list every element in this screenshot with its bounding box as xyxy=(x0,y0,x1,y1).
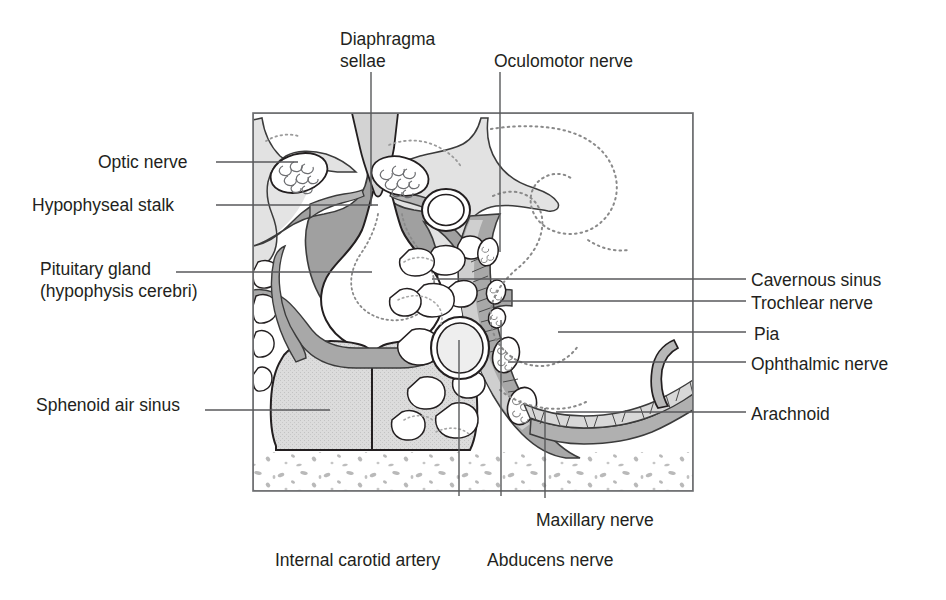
label-pituitary-gland-line1: Pituitary gland xyxy=(40,258,198,280)
label-abducens-nerve: Abducens nerve xyxy=(487,550,613,571)
label-oculomotor-nerve: Oculomotor nerve xyxy=(494,51,633,72)
label-sphenoid-air-sinus: Sphenoid air sinus xyxy=(36,395,180,416)
internal-carotid-artery-upper xyxy=(422,189,470,231)
label-ophthalmic-nerve: Ophthalmic nerve xyxy=(751,354,888,375)
label-trochlear-nerve: Trochlear nerve xyxy=(751,293,873,314)
label-pituitary-gland-line2: (hypophysis cerebri) xyxy=(40,280,198,302)
bone-marrow-speckle xyxy=(253,452,693,491)
label-arachnoid: Arachnoid xyxy=(751,404,830,425)
internal-carotid-artery-in-sinus xyxy=(431,317,489,379)
label-diaphragma-sellae: Diaphragma sellae xyxy=(340,28,435,72)
label-cavernous-sinus: Cavernous sinus xyxy=(751,270,881,291)
label-diaphragma-sellae-line1: Diaphragma xyxy=(340,28,435,50)
label-internal-carotid-artery: Internal carotid artery xyxy=(275,550,440,571)
label-pituitary-gland: Pituitary gland (hypophysis cerebri) xyxy=(40,258,198,302)
label-optic-nerve: Optic nerve xyxy=(98,152,187,173)
label-maxillary-nerve: Maxillary nerve xyxy=(536,510,654,531)
diagram-interior xyxy=(253,113,693,491)
label-diaphragma-sellae-line2: sellae xyxy=(340,50,435,72)
label-hypophyseal-stalk: Hypophyseal stalk xyxy=(32,195,174,216)
figure-page: Diaphragma sellae Oculomotor nerve Optic… xyxy=(0,0,946,600)
label-pia: Pia xyxy=(754,324,779,345)
